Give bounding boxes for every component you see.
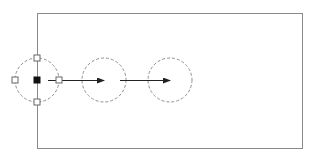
grip-right-handle[interactable] <box>56 77 62 83</box>
grip-center-handle[interactable] <box>34 77 40 83</box>
grip-top-handle[interactable] <box>34 55 40 61</box>
grip-left-handle[interactable] <box>12 77 18 83</box>
grip-bottom-handle[interactable] <box>34 99 40 105</box>
drawing-canvas[interactable] <box>0 0 313 158</box>
